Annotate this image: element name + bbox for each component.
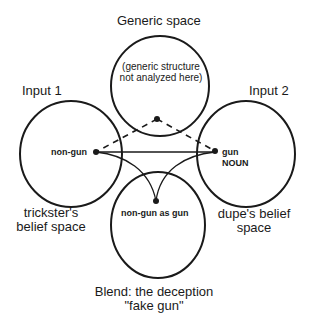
input2-caption-line2: space (214, 221, 294, 235)
generic-element-dot (154, 116, 160, 122)
input2-caption-line1: dupe's belief (214, 207, 294, 221)
input1-title: Input 1 (22, 83, 62, 98)
input2-element-name: gun (222, 147, 249, 158)
input2-to-blend-curve (156, 152, 215, 201)
blend-caption-line2: "fake gun" (92, 299, 216, 313)
generic-space-title: Generic space (117, 13, 201, 28)
blend-caption-line1: Blend: the deception (92, 285, 216, 299)
generic-space-note: (generic structure not analyzed here) (113, 61, 209, 83)
blending-diagram (0, 0, 310, 322)
input1-caption-line2: belief space (14, 220, 88, 234)
input2-title: Input 2 (249, 83, 289, 98)
input2-element-dot (212, 148, 218, 154)
blend-space-circle (111, 172, 205, 278)
input1-caption-line1: trickster's (14, 206, 88, 220)
input1-element-label: non-gun (51, 147, 87, 158)
blend-caption: Blend: the deception "fake gun" (92, 285, 216, 313)
generic-note-line1: (generic structure (113, 61, 209, 72)
input2-element-label: gun NOUN (222, 147, 249, 169)
input2-caption: dupe's belief space (214, 207, 294, 235)
input1-element-dot (93, 149, 99, 155)
generic-note-line2: not analyzed here) (113, 72, 209, 83)
blend-element-dot (153, 198, 159, 204)
input2-element-sub: NOUN (222, 158, 249, 169)
input1-caption: trickster's belief space (14, 206, 88, 234)
blend-element-label: non-gun as gun (121, 208, 189, 219)
